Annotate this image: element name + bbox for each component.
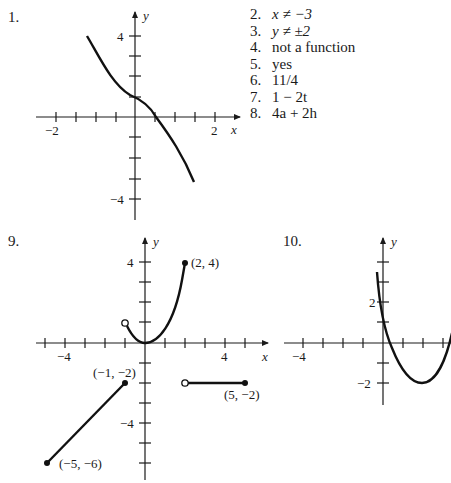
tick-label-x-pos: 2 xyxy=(211,123,218,138)
closed-point xyxy=(242,380,248,386)
graph-10: y −4 2 −2 xyxy=(284,234,451,405)
y-axis-label: y xyxy=(389,234,397,249)
curve xyxy=(87,36,194,182)
curve xyxy=(377,272,451,383)
point-label-5-neg2: (5, −2) xyxy=(224,387,260,402)
x-axis-label: x xyxy=(230,122,237,137)
point-label-neg1-neg2: (−1, −2) xyxy=(93,365,136,380)
closed-point xyxy=(182,260,188,266)
open-point xyxy=(122,320,128,326)
tick-label-x-neg: −2 xyxy=(45,123,59,138)
graphs-canvas: y x −2 2 4 −4 y x −4 4 4 −4 xyxy=(0,0,451,483)
line-segment xyxy=(47,383,125,463)
point-label-2-4: (2, 4) xyxy=(191,255,219,270)
tick-label-y-neg: −4 xyxy=(120,416,134,431)
graph-9: y x −4 4 4 −4 (2, 4) (−1, −2) (5, −2) (−… xyxy=(36,234,268,480)
graph-1: y x −2 2 4 −4 xyxy=(36,8,240,220)
y-axis-label: y xyxy=(141,8,149,23)
x-axis-label: x xyxy=(261,349,268,364)
y-axis-label: y xyxy=(151,234,159,249)
closed-point xyxy=(44,460,50,466)
parabola-curve xyxy=(127,263,185,343)
tick-label-y-pos: 2 xyxy=(369,295,376,310)
tick-label-x-neg: −4 xyxy=(57,349,71,364)
tick-label-x-pos: 4 xyxy=(221,349,228,364)
tick-label-y-pos: 4 xyxy=(117,29,124,44)
closed-point xyxy=(122,380,128,386)
point-label-neg5-neg6: (−5, −6) xyxy=(59,456,102,471)
tick-label-y-neg: −4 xyxy=(110,192,124,207)
open-point xyxy=(182,380,188,386)
tick-label-y-pos: 4 xyxy=(127,255,134,270)
tick-label-y-neg: −2 xyxy=(357,376,371,391)
tick-label-x-neg: −4 xyxy=(292,349,306,364)
